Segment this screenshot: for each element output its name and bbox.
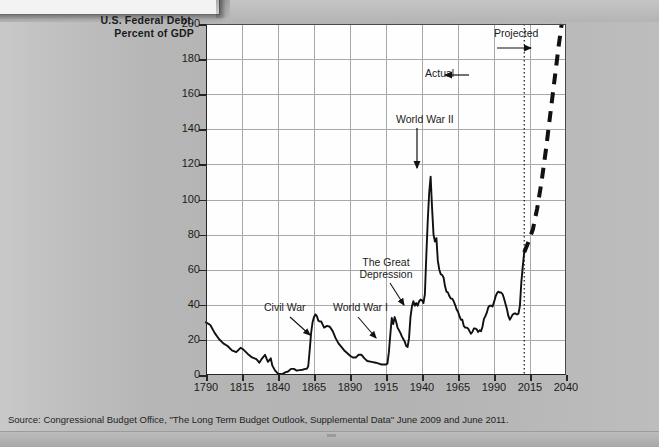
y-axis-tick-label: 60 — [156, 263, 200, 275]
y-axis-tick-mark — [199, 340, 206, 342]
y-axis-tick-label: 160 — [156, 87, 200, 99]
y-axis-tick-mark — [199, 305, 206, 307]
annotation-world-war-1: World War I — [333, 301, 388, 313]
y-axis-tick-label: 100 — [156, 193, 200, 205]
y-axis-tick-label: 80 — [156, 228, 200, 240]
annotation-civil-war: Civil War — [264, 301, 306, 313]
y-axis-tick-label: 40 — [156, 298, 200, 310]
y-axis-tick-mark — [199, 59, 206, 61]
y-axis-tick-mark — [199, 24, 206, 26]
leader-civil-war — [290, 317, 310, 335]
y-axis-tick-label: 200 — [156, 17, 200, 29]
y-axis-tick-label: 0 — [156, 368, 200, 380]
y-axis-tick-mark — [199, 164, 206, 166]
y-axis-tick-mark — [199, 375, 206, 377]
x-axis-tick-label: 2040 — [541, 381, 591, 393]
x-axis-labels: 1790181518401865189019151940196519902015… — [206, 381, 566, 401]
y-axis-tick-label: 140 — [156, 122, 200, 134]
chart-data-layer — [206, 24, 566, 375]
y-axis-labels: 020406080100120140160180200 — [152, 24, 200, 375]
source-note: Source: Congressional Budget Office, "Th… — [8, 414, 648, 425]
series-line-projected — [524, 24, 561, 252]
y-axis-tick-label: 120 — [156, 157, 200, 169]
leader-world-war-1 — [358, 317, 376, 338]
annotation-world-war-2: World War II — [396, 113, 454, 125]
footer-center-mark — [327, 434, 336, 437]
annotation-great-depression-line-1: The Great — [350, 256, 422, 268]
y-axis-tick-mark — [199, 200, 206, 202]
plot-area: Civil War World War I The Great Depressi… — [206, 24, 566, 375]
y-axis-tick-mark — [199, 270, 206, 272]
leader-great-depression — [390, 283, 404, 305]
annotation-great-depression-line-2: Depression — [350, 268, 422, 280]
corner-page-shadow — [216, 0, 230, 18]
corner-page-sheet — [0, 0, 220, 15]
annotation-projected: Projected — [494, 27, 538, 39]
y-axis-tick-mark — [199, 129, 206, 131]
y-axis-tick-label: 180 — [156, 52, 200, 64]
annotation-actual: Actual — [425, 67, 454, 79]
y-axis-tick-mark — [199, 94, 206, 96]
y-axis-tick-label: 20 — [156, 333, 200, 345]
y-axis-tick-mark — [199, 235, 206, 237]
